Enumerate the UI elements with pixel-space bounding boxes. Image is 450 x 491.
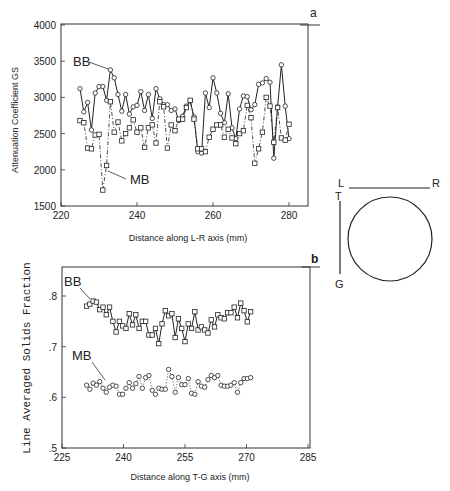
specimen-circle-icon bbox=[348, 197, 432, 281]
data-point bbox=[283, 104, 287, 108]
data-point bbox=[146, 92, 150, 96]
data-point bbox=[107, 305, 111, 309]
series-group-b bbox=[84, 299, 252, 397]
x-tick-label: 220 bbox=[53, 210, 70, 221]
data-point bbox=[253, 102, 257, 106]
x-axis-label-b: Distance along T-G axis (mm) bbox=[131, 472, 250, 482]
data-point bbox=[268, 104, 272, 108]
y-axis-ticks-a: 150020002500300035004000 bbox=[34, 20, 65, 212]
data-point bbox=[176, 317, 180, 321]
data-point bbox=[207, 105, 211, 109]
y-tick-label: .6 bbox=[49, 392, 58, 403]
x-axis-ticks-a: 220240260280 bbox=[53, 202, 298, 221]
data-point bbox=[112, 76, 116, 80]
data-point bbox=[114, 330, 118, 334]
data-point bbox=[218, 111, 222, 115]
series-line-bb bbox=[80, 65, 289, 158]
data-point bbox=[139, 126, 143, 130]
data-point bbox=[112, 130, 116, 134]
y-tick-label: .7 bbox=[49, 342, 58, 353]
data-point bbox=[94, 300, 98, 304]
data-point bbox=[104, 313, 108, 317]
data-point bbox=[283, 138, 287, 142]
data-point bbox=[169, 123, 173, 127]
chart-panel-a: a 150020002500300035004000 220240260280 … bbox=[10, 6, 320, 243]
data-point bbox=[275, 105, 279, 109]
x-tick-label: 270 bbox=[238, 452, 255, 463]
x-axis-label-a: Distance along L-R axis (mm) bbox=[129, 233, 248, 243]
data-point bbox=[94, 383, 98, 387]
data-point bbox=[229, 311, 233, 315]
data-point bbox=[232, 380, 236, 384]
data-point bbox=[101, 188, 105, 192]
data-point bbox=[260, 81, 264, 85]
x-tick-label: 255 bbox=[177, 452, 194, 463]
data-point bbox=[150, 116, 154, 120]
data-point bbox=[170, 312, 174, 316]
data-point bbox=[237, 107, 241, 111]
data-point bbox=[193, 392, 197, 396]
data-point bbox=[226, 127, 230, 131]
data-point bbox=[124, 386, 128, 390]
label-l: L bbox=[338, 177, 344, 189]
data-point bbox=[173, 107, 177, 111]
data-point bbox=[137, 374, 141, 378]
data-point bbox=[93, 91, 97, 95]
legend-label-mb-b: MB bbox=[72, 348, 92, 363]
legend-leader-mb-a bbox=[108, 171, 126, 179]
data-point bbox=[153, 326, 157, 330]
legend-label-bb-b: BB bbox=[64, 274, 81, 289]
legend-leader-mb-b bbox=[92, 362, 105, 380]
data-point bbox=[120, 139, 124, 143]
data-point bbox=[108, 100, 112, 104]
y-axis-label-b: Line Averaged Solids Fraction bbox=[21, 262, 33, 453]
data-point bbox=[180, 326, 184, 330]
data-point bbox=[256, 147, 260, 151]
data-point bbox=[111, 319, 115, 323]
data-point bbox=[230, 136, 234, 140]
data-point bbox=[130, 323, 134, 327]
data-point bbox=[117, 319, 121, 323]
figure: a 150020002500300035004000 220240260280 … bbox=[0, 0, 450, 491]
x-axis-ticks-b: 225240255270285 bbox=[54, 444, 317, 463]
data-point bbox=[176, 375, 180, 379]
data-point bbox=[123, 131, 127, 135]
data-point bbox=[209, 318, 213, 322]
data-point bbox=[253, 161, 257, 165]
data-point bbox=[170, 374, 174, 378]
data-point bbox=[287, 122, 291, 126]
data-point bbox=[82, 110, 86, 114]
data-point bbox=[186, 322, 190, 326]
data-point bbox=[120, 392, 124, 396]
data-point bbox=[161, 105, 165, 109]
data-point bbox=[147, 373, 151, 377]
data-point bbox=[116, 92, 120, 96]
data-point bbox=[203, 91, 207, 95]
data-point bbox=[211, 76, 215, 80]
data-point bbox=[85, 100, 89, 104]
data-point bbox=[260, 130, 264, 134]
panel-label-a: a bbox=[310, 6, 317, 20]
data-point bbox=[206, 377, 210, 381]
data-point bbox=[202, 385, 206, 389]
data-point bbox=[226, 92, 230, 96]
data-point bbox=[268, 80, 272, 84]
data-point bbox=[180, 117, 184, 121]
data-point bbox=[215, 91, 219, 95]
data-point bbox=[120, 109, 124, 113]
series-group-a bbox=[78, 63, 291, 193]
x-tick-label: 240 bbox=[115, 452, 132, 463]
data-point bbox=[222, 135, 226, 139]
label-t: T bbox=[335, 190, 342, 202]
x-tick-label: 240 bbox=[129, 210, 146, 221]
data-point bbox=[104, 390, 108, 394]
data-point bbox=[234, 142, 238, 146]
data-point bbox=[150, 333, 154, 337]
data-point bbox=[131, 118, 135, 122]
data-point bbox=[193, 310, 197, 314]
data-point bbox=[78, 87, 82, 91]
data-point bbox=[239, 301, 243, 305]
x-tick-label: 260 bbox=[205, 210, 222, 221]
data-point bbox=[123, 92, 127, 96]
legend-label-mb-a: MB bbox=[130, 172, 150, 187]
